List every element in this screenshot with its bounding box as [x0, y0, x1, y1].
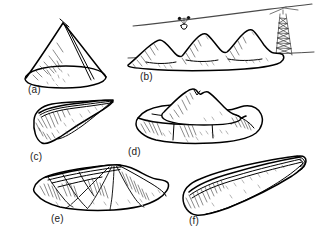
panel-label-c: (c) [30, 151, 42, 162]
panel-label-a: (a) [28, 84, 41, 95]
panel-label-b: (b) [140, 71, 153, 82]
spoil-heap-figure-drawing [0, 0, 319, 238]
panel-f-elongated-finger-heap [183, 156, 306, 215]
ropeway-cable [133, 7, 286, 26]
panel-label-d: (d) [128, 146, 141, 157]
panel-a-conical-heap [25, 19, 106, 88]
panel-label-f: (f) [189, 215, 199, 226]
ropeway-lattice-tower [270, 8, 298, 55]
ropeway-trolley-bucket [178, 16, 190, 29]
panel-b-multiple-conical-heaps [128, 4, 314, 71]
panel-c-ridge-heap [34, 100, 113, 144]
panel-d-terraced-plateau-heap [136, 89, 262, 143]
panel-label-e: (e) [51, 213, 64, 224]
panel-e-fan-lobed-heap [34, 165, 169, 211]
figure-container: (a) (b) (c) (d) (e) (f) [0, 0, 319, 238]
